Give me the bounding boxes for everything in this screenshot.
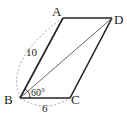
parallelogram-diagram: A D B C 10 60° 6 [0,0,127,120]
vertex-label-a: A [52,4,62,19]
vertex-label-c: C [71,92,80,107]
angle-b-label: 60° [31,87,45,98]
bc-length-label: 6 [42,102,48,114]
diagonal-bd [20,18,112,98]
vertex-label-d: D [114,12,123,27]
edge-dc [70,18,112,98]
vertex-label-b: B [4,92,13,107]
edge-ab [20,18,63,98]
ab-length-label: 10 [26,46,38,58]
